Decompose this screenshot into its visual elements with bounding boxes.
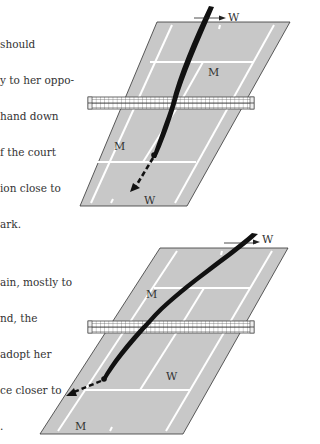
server-arrow-icon (219, 16, 226, 21)
bottom-court-diagram: W M W M (40, 233, 288, 434)
label-far-player: M (146, 288, 157, 301)
top-court-diagram: W M M W (80, 6, 290, 207)
label-near-player-left: M (114, 140, 125, 153)
label-far-player: M (208, 66, 219, 79)
ball-bounce-dot (101, 376, 107, 382)
court-surface (80, 22, 290, 206)
label-server: W (262, 233, 274, 246)
label-near-player-mid: W (166, 370, 178, 383)
net (88, 321, 254, 333)
label-near-player-bottom: M (75, 420, 86, 433)
court-surface (40, 248, 288, 434)
label-near-player-bottom: W (144, 194, 156, 207)
ball-bounce-dot (151, 152, 157, 158)
server-arrow-icon (253, 240, 260, 245)
label-server: W (228, 11, 240, 24)
